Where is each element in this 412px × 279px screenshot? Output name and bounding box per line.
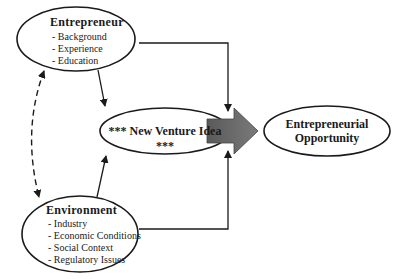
environment-to-opportunity-connector — [139, 151, 228, 229]
environment-title: Environment — [46, 203, 141, 218]
environment-item: - Social Context — [48, 242, 141, 254]
environment-item: - Regulatory Issues — [48, 254, 141, 266]
entrepreneur-environment-dashed-link — [32, 71, 44, 197]
opportunity-line1: Entrepreneurial — [264, 117, 390, 131]
environment-item: - Economic Conditions — [48, 230, 141, 242]
entrepreneur-node: Entrepreneur - Background - Experience -… — [50, 15, 124, 67]
opportunity-node: Entrepreneurial Opportunity — [264, 117, 390, 145]
entrepreneur-to-opportunity-connector — [139, 43, 228, 111]
environment-node: Environment - Industry - Economic Condit… — [46, 203, 141, 266]
entrepreneur-to-idea-arrow — [98, 70, 105, 106]
entrepreneur-item: - Background — [52, 31, 124, 43]
environment-to-idea-arrow — [97, 156, 106, 197]
entrepreneur-title: Entrepreneur — [50, 15, 124, 30]
environment-item: - Industry — [48, 218, 141, 230]
opportunity-line2: Opportunity — [264, 131, 390, 145]
entrepreneur-item: - Experience — [52, 43, 124, 55]
entrepreneur-item: - Education — [52, 55, 124, 67]
new-venture-idea-label: *** New Venture Idea *** — [100, 124, 230, 154]
